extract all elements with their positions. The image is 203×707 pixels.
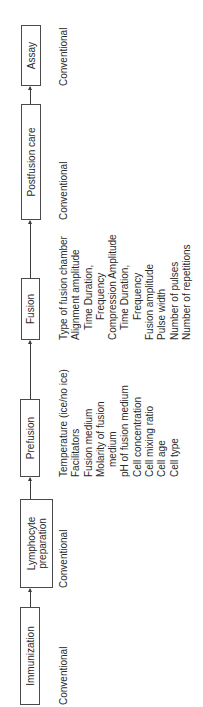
parameters-fusion: Type of fusion chamberAlignment amplitud… [58, 234, 193, 340]
parameter-item: Alignment amplitude [70, 234, 82, 340]
parameter-item: Conventional [58, 647, 70, 705]
arrow-postfusion-to-assay [30, 87, 31, 104]
parameters-lymphocyte-preparation: Conventional [58, 530, 70, 588]
parameter-item: Number of pulses [169, 234, 181, 340]
parameter-item: Cell concentration [132, 369, 144, 477]
step-label-lymphocyte-preparation: Lymphocyte preparation [26, 517, 48, 571]
step-label-prefusion: Prefusion [25, 417, 36, 459]
parameter-item: Compression Amplitude [107, 234, 119, 340]
parameter-item: Time Duration, [119, 234, 131, 340]
step-box-fusion: Fusion [21, 278, 40, 340]
step-box-assay: Assay [21, 25, 41, 86]
step-label-fusion: Fusion [25, 294, 36, 324]
parameters-assay: Conventional [58, 28, 70, 86]
step-label-line-1: Lymphocyte [26, 517, 37, 571]
arrow-immunization-to-lymphocyte [30, 589, 31, 607]
parameter-item: Conventional [58, 162, 70, 220]
step-box-postfusion-care: Postfusion care [21, 104, 41, 220]
parameter-item: Temperature (ice/no ice) [58, 369, 70, 477]
parameter-item: Time Duration, [83, 234, 95, 340]
parameter-item: Frequency [95, 234, 107, 340]
parameter-item: Number of repetitions [181, 234, 193, 340]
step-label-assay: Assay [26, 42, 37, 69]
parameter-item: Cell type [169, 369, 181, 477]
parameter-item: Cell age [156, 369, 168, 477]
parameter-item: medium [107, 369, 119, 477]
parameter-item: Conventional [58, 530, 70, 588]
parameters-prefusion: Temperature (ice/no ice)FacilitatorsFusi… [58, 369, 181, 477]
parameter-item: Cell mixing ratio [144, 369, 156, 477]
parameter-item: Conventional [58, 28, 70, 86]
step-label-postfusion-care: Postfusion care [26, 128, 37, 197]
parameter-item: Facilitators [70, 369, 82, 477]
step-box-immunization: Immunization [20, 607, 40, 705]
parameters-postfusion-care: Conventional [58, 162, 70, 220]
arrow-lymphocyte-to-prefusion [30, 478, 31, 499]
parameter-item: Molarity of fusion [95, 369, 107, 477]
parameter-item: pH of fusion medium [119, 369, 131, 477]
step-box-prefusion: Prefusion [20, 399, 40, 477]
parameter-item: Fusion medium [83, 369, 95, 477]
fusion-protocol-flow-diagram: Immunization Lymphocyte preparation Pref… [0, 0, 203, 707]
parameter-item: Frequency [132, 234, 144, 340]
arrow-prefusion-to-fusion [30, 341, 31, 399]
parameter-item: Fusion amplitude [144, 234, 156, 340]
parameter-item: Type of fusion chamber [58, 234, 70, 340]
arrow-fusion-to-postfusion [30, 221, 31, 278]
step-label-line-2: preparation [37, 518, 48, 569]
parameters-immunization: Conventional [58, 647, 70, 705]
step-box-lymphocyte-preparation: Lymphocyte preparation [20, 499, 53, 588]
step-label-immunization: Immunization [25, 626, 36, 685]
parameter-item: Pulse width [156, 234, 168, 340]
